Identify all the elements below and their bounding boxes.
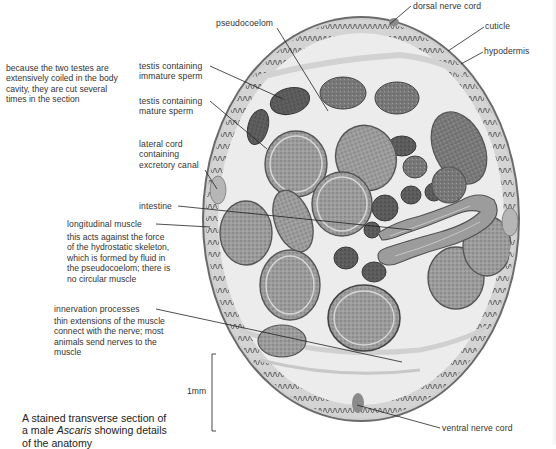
label-intestine: intestine: [139, 201, 172, 211]
testis-mature-section: [220, 201, 272, 265]
note-muscle: this acts against the force of the hydro…: [67, 232, 170, 284]
scale-bar-label: 1mm: [187, 386, 206, 396]
label-innervation-processes: innervation processes: [54, 304, 140, 314]
label-pseudocoelom: pseudocoelom: [216, 18, 273, 28]
lateral-cord-right: [502, 208, 518, 236]
testis-mature-section: [312, 172, 372, 236]
testis-immature-section: [320, 77, 366, 109]
dorsal-nerve-cord: [389, 18, 399, 26]
ventral-nerve-cord: [352, 393, 364, 413]
page-edge: [551, 0, 556, 445]
testis-immature-section: [375, 82, 419, 114]
note-innervation: thin extensions of the muscle connect wi…: [54, 316, 165, 358]
label-dorsal-nerve-cord: dorsal nerve cord: [413, 1, 481, 11]
label-cuticle: cuticle: [485, 21, 510, 31]
label-testis-mature: testis containing mature sperm: [139, 96, 202, 117]
label-hypodermis: hypodermis: [484, 46, 529, 56]
note-testes: because the two testes are extensively c…: [6, 63, 118, 105]
label-lateral-cord: lateral cord containing excretory canal: [139, 139, 199, 170]
testis-mature-section: [260, 250, 320, 320]
scale-bar: [212, 354, 216, 431]
label-testis-immature: testis containing immature sperm: [139, 61, 202, 82]
label-longitudinal-muscle: longitudinal muscle: [67, 219, 142, 229]
lateral-cord-left: [210, 176, 226, 204]
testis-mature-section: [328, 285, 400, 351]
label-ventral-nerve-cord: ventral nerve cord: [442, 423, 513, 433]
figure-caption: A stained transverse section of a male A…: [22, 412, 167, 449]
